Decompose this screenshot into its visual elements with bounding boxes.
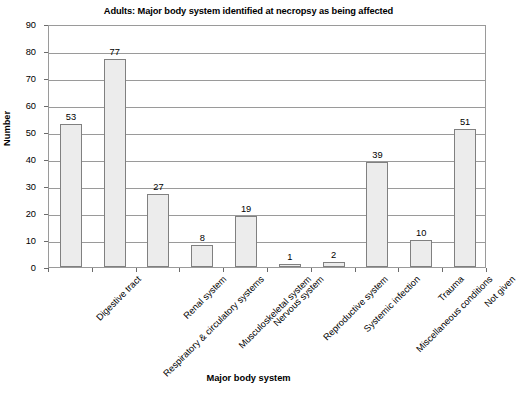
- y-tick-mark: [44, 268, 48, 269]
- x-tick-label: Systemic infection: [362, 274, 422, 334]
- bar-value-label: 77: [110, 47, 120, 57]
- plot-area: 53772781912391051: [48, 25, 486, 268]
- x-tick-mark: [223, 268, 224, 272]
- x-tick-mark: [355, 268, 356, 272]
- y-tick-label: 30: [26, 182, 36, 192]
- x-axis-title: Major body system: [0, 373, 497, 383]
- bar-slot: 51: [443, 26, 487, 267]
- x-tick-mark: [267, 268, 268, 272]
- x-tick-mark: [92, 268, 93, 272]
- bars-layer: 53772781912391051: [49, 26, 485, 267]
- y-tick-mark: [44, 241, 48, 242]
- y-tick-label: 40: [26, 155, 36, 165]
- y-tick-mark: [44, 25, 48, 26]
- bar-slot: 1: [268, 26, 312, 267]
- bar-musculoskeletal-system[interactable]: [191, 245, 213, 267]
- chart-title: Adults: Major body system identified at …: [0, 6, 497, 16]
- bar-slot: 19: [224, 26, 268, 267]
- bar-respiratory-circulatory-systems[interactable]: [104, 59, 126, 267]
- bar-value-label: 53: [66, 112, 76, 122]
- x-tick-mark: [48, 268, 49, 272]
- y-tick-mark: [44, 106, 48, 107]
- bar-slot: 8: [180, 26, 224, 267]
- y-tick-label: 0: [31, 263, 36, 273]
- bar-value-label: 10: [416, 228, 426, 238]
- bar-value-label: 51: [460, 117, 470, 127]
- bar-digestive-tract[interactable]: [60, 124, 82, 267]
- bar-renal-system[interactable]: [147, 194, 169, 267]
- bar-nervous-system[interactable]: [235, 216, 257, 267]
- bar-slot: 2: [312, 26, 356, 267]
- x-tick-mark: [398, 268, 399, 272]
- y-tick-label: 20: [26, 209, 36, 219]
- y-tick-label: 70: [26, 74, 36, 84]
- y-tick-label: 80: [26, 47, 36, 57]
- x-tick-mark: [442, 268, 443, 272]
- y-tick-mark: [44, 187, 48, 188]
- bar-reproductive-system[interactable]: [279, 264, 301, 267]
- x-tick-mark: [136, 268, 137, 272]
- bar-slot: 27: [137, 26, 181, 267]
- x-tick-mark: [311, 268, 312, 272]
- y-tick-mark: [44, 52, 48, 53]
- bar-miscellaneous-conditions[interactable]: [366, 162, 388, 267]
- y-tick-label: 10: [26, 236, 36, 246]
- y-tick-mark: [44, 214, 48, 215]
- y-axis: 9080706050403020100: [0, 0, 44, 404]
- bar-value-label: 27: [153, 182, 163, 192]
- bar-slot: 39: [356, 26, 400, 267]
- x-tick-mark: [486, 268, 487, 272]
- x-tick-mark: [179, 268, 180, 272]
- bar-not-given[interactable]: [454, 129, 476, 267]
- bar-value-label: 1: [287, 252, 292, 262]
- y-tick-mark: [44, 160, 48, 161]
- bar-value-label: 2: [331, 250, 336, 260]
- y-tick-label: 90: [26, 20, 36, 30]
- y-tick-label: 60: [26, 101, 36, 111]
- bar-slot: 77: [93, 26, 137, 267]
- bar-systemic-infection[interactable]: [323, 262, 345, 267]
- bar-slot: 53: [49, 26, 93, 267]
- bar-value-label: 19: [241, 204, 251, 214]
- bar-trauma[interactable]: [410, 240, 432, 267]
- bar-value-label: 8: [200, 233, 205, 243]
- y-tick-label: 50: [26, 128, 36, 138]
- x-tick-label: Digestive tract: [94, 274, 143, 323]
- y-tick-mark: [44, 79, 48, 80]
- bar-slot: 10: [399, 26, 443, 267]
- y-tick-mark: [44, 133, 48, 134]
- bar-value-label: 39: [372, 150, 382, 160]
